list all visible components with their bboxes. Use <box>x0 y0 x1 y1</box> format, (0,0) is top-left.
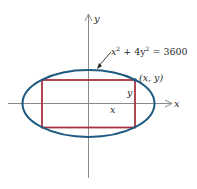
rect-width-label: x <box>110 104 116 115</box>
equation-rhs: = 3600 <box>149 46 187 57</box>
ellipse-equation-label: x2 + 4y2 = 3600 <box>111 45 188 57</box>
equation-mid: + 4y <box>120 46 146 57</box>
corner-point <box>133 78 137 82</box>
x-axis-label: x <box>174 98 180 109</box>
coordinate-axes <box>8 14 172 178</box>
point-label: (x, y) <box>139 72 163 83</box>
equation-pointer-arrow-icon <box>97 52 111 69</box>
rect-height-label: y <box>126 87 133 98</box>
diagram-canvas: y x x2 + 4y2 = 3600 (x, y) y x <box>0 0 197 189</box>
y-axis-label: y <box>93 13 100 24</box>
